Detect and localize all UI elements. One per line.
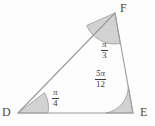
fraction-numerator: π [101,40,108,49]
fraction-numerator: π [52,88,59,97]
angle-sectors [18,13,133,113]
vertex-label-F: F [120,2,127,14]
fraction-pi-over-3: π 3 [101,40,108,61]
fraction-denominator: 3 [101,51,108,60]
angle-sector-D [18,93,48,113]
side-EF [115,13,133,113]
vertex-label-E: E [140,106,147,118]
fraction-pi-over-4: π 4 [52,88,59,109]
fraction-5pi-over-12: 5π 12 [95,69,106,90]
fraction-numerator: 5π [95,69,106,78]
fraction-denominator: 12 [95,80,106,89]
fraction-denominator: 4 [52,99,59,108]
vertex-label-D: D [2,106,11,118]
angle-label-E: 5π 12 [95,69,106,90]
angle-label-D: π 4 [52,88,59,109]
side-FD [18,13,115,113]
angle-label-F: π 3 [101,40,108,61]
triangle-diagram-svg [0,0,155,126]
geometry-figure: D E F π 4 5π 12 π 3 [0,0,155,126]
